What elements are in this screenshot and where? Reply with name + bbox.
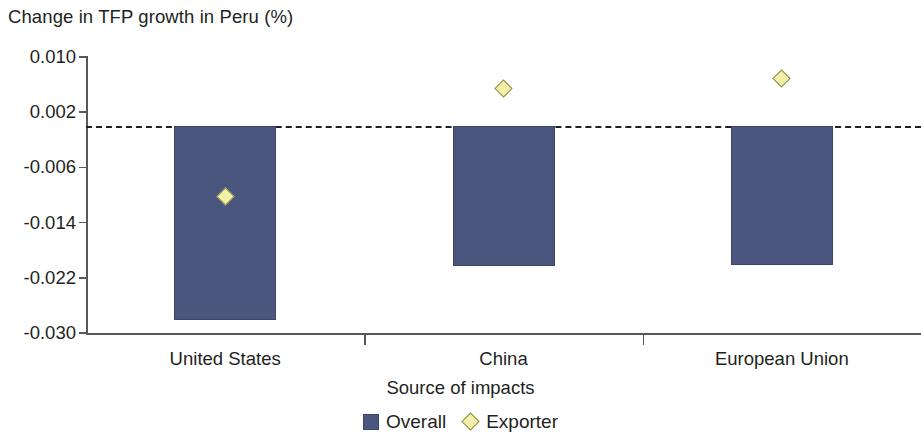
legend-entry: Exporter xyxy=(462,412,558,431)
chart-legend: OverallExporter xyxy=(0,412,921,431)
y-tick-mark xyxy=(79,332,87,334)
y-tick-mark xyxy=(79,277,87,279)
x-axis-spine xyxy=(86,333,921,335)
y-tick-label: -0.030 xyxy=(2,322,76,344)
x-axis-category-label: European Union xyxy=(715,348,849,370)
legend-entry: Overall xyxy=(363,412,446,431)
x-tick-mark xyxy=(643,334,645,345)
tfp-growth-chart: Change in TFP growth in Peru (%) 0.0100.… xyxy=(0,0,921,446)
y-tick-mark xyxy=(79,222,87,224)
bar xyxy=(174,126,276,320)
y-axis-spine xyxy=(86,56,88,334)
y-tick-label: -0.022 xyxy=(2,267,76,289)
exporter-diamond-marker xyxy=(773,69,791,87)
y-tick-label: -0.014 xyxy=(2,212,76,234)
y-tick-label: 0.002 xyxy=(2,101,76,123)
x-axis-category-label: China xyxy=(479,348,527,370)
bar xyxy=(731,126,833,265)
legend-square-icon xyxy=(363,414,379,430)
x-axis-category-label: United States xyxy=(170,348,281,370)
x-tick-mark xyxy=(364,334,366,345)
legend-diamond-icon xyxy=(461,412,479,430)
legend-label: Exporter xyxy=(486,412,558,431)
y-tick-mark xyxy=(79,56,87,58)
x-axis-title: Source of impacts xyxy=(0,377,921,399)
y-tick-mark xyxy=(79,111,87,113)
legend-label: Overall xyxy=(386,412,446,431)
y-tick-label: 0.010 xyxy=(2,46,76,68)
y-tick-label: -0.006 xyxy=(2,156,76,178)
exporter-diamond-marker xyxy=(494,79,512,97)
bar xyxy=(453,126,555,266)
y-tick-mark xyxy=(79,167,87,169)
chart-title: Change in TFP growth in Peru (%) xyxy=(8,6,293,28)
